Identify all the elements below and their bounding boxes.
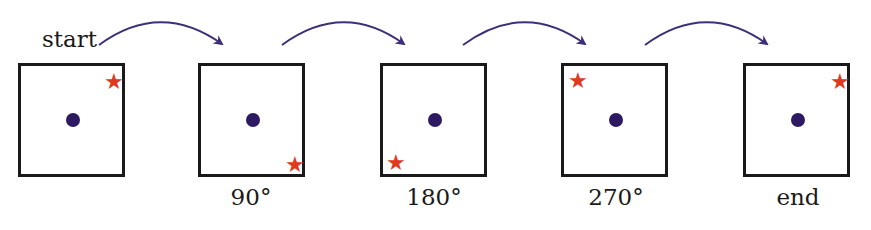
- arrow-3: [463, 22, 585, 45]
- caption-180: 180°: [374, 184, 494, 210]
- center-dot-icon: [609, 113, 623, 127]
- center-dot-icon: [428, 113, 442, 127]
- panel-180: ★: [380, 63, 487, 177]
- center-dot-icon: [791, 113, 805, 127]
- center-dot-icon: [246, 113, 260, 127]
- panel-end: ★: [743, 63, 850, 177]
- caption-90: 90°: [191, 184, 311, 210]
- panel-270: ★: [561, 63, 668, 177]
- caption-270: 270°: [556, 184, 676, 210]
- rotation-diagram: start ★ ★ 90° ★ 180° ★ 270° ★ end: [0, 0, 871, 230]
- arrow-4: [645, 22, 767, 45]
- star-icon: ★: [567, 70, 589, 92]
- star-icon: ★: [284, 154, 306, 176]
- arrow-1: [99, 22, 222, 45]
- caption-end: end: [738, 184, 858, 210]
- center-dot-icon: [66, 113, 80, 127]
- arrow-2: [282, 22, 404, 45]
- star-icon: ★: [385, 152, 407, 174]
- star-icon: ★: [829, 71, 851, 93]
- panel-start: ★: [18, 63, 125, 177]
- star-icon: ★: [103, 71, 125, 93]
- panel-90: ★: [198, 63, 305, 177]
